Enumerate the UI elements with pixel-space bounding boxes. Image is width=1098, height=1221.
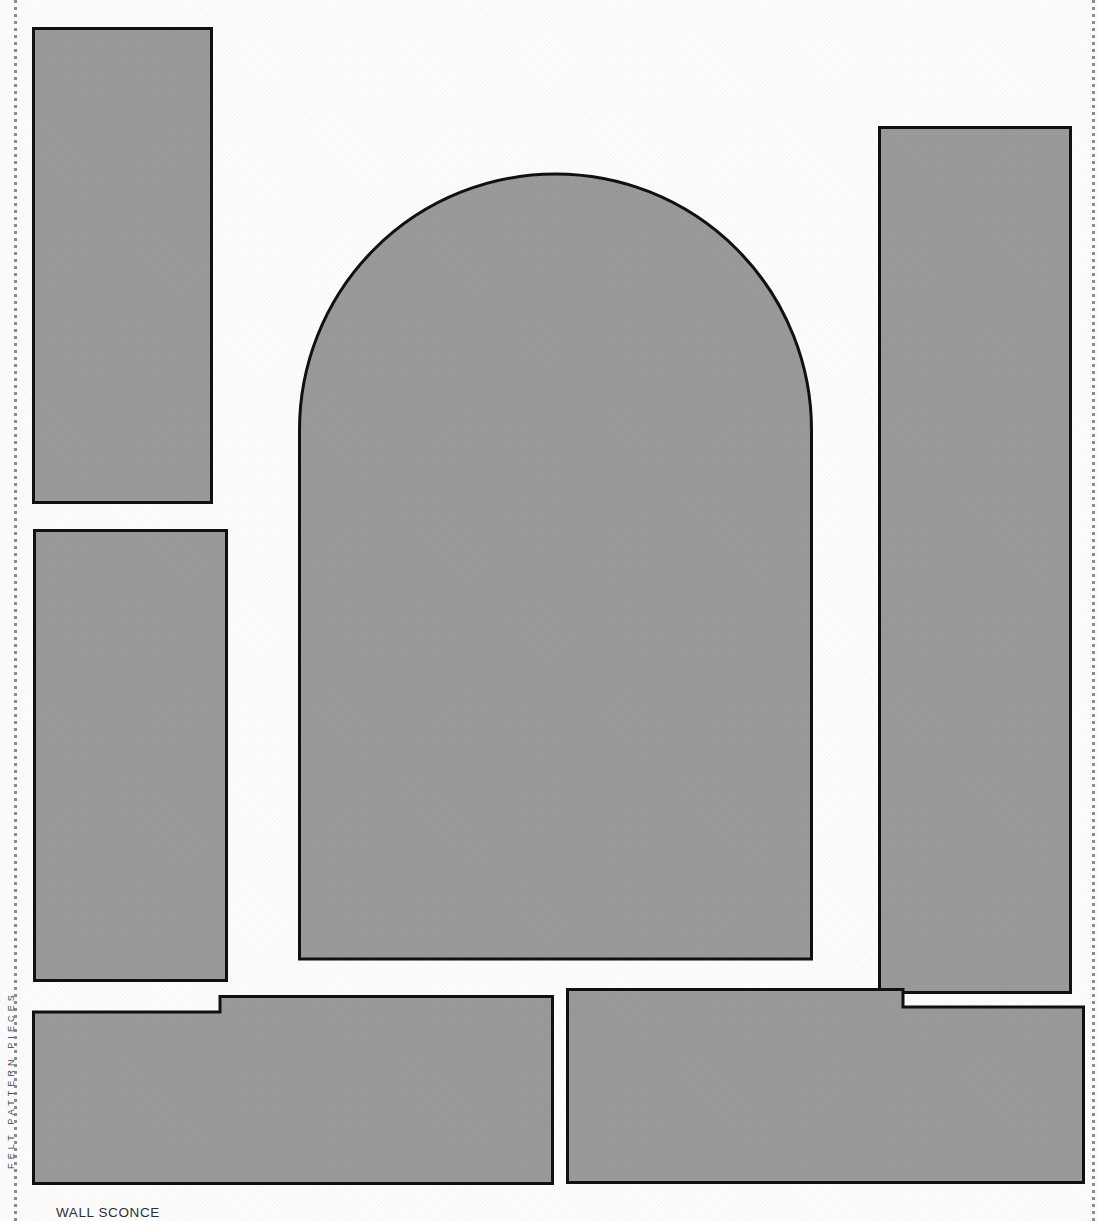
piece-base-right bbox=[566, 988, 1085, 1184]
piece-panel-top-left bbox=[32, 27, 213, 504]
right-margin-rule bbox=[1092, 0, 1095, 1221]
bottom-caption-text: WALL SCONCE bbox=[56, 1205, 160, 1220]
piece-base-left bbox=[32, 995, 554, 1185]
piece-panel-bottom-left bbox=[33, 529, 228, 982]
pattern-sheet: FELT PATTERN PIECES WALL SCONCE bbox=[0, 0, 1098, 1221]
margin-caption-text: FELT PATTERN PIECES bbox=[6, 965, 16, 1195]
piece-panel-right-tall bbox=[878, 126, 1072, 994]
piece-panel-arch-center bbox=[298, 171, 813, 959]
